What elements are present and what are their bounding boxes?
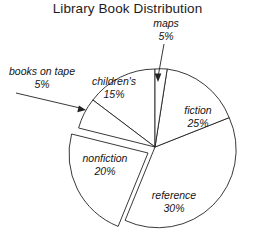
slice-label-childrens: children's (92, 75, 137, 87)
callout-label-maps: maps (153, 17, 179, 29)
pie-chart-canvas: children's 15% fiction 25% nonfiction 20… (0, 0, 255, 246)
callout-value-maps: 5% (158, 30, 173, 42)
callout-label-books-on-tape: books on tape (9, 65, 75, 77)
callout-value-books-on-tape: 5% (34, 78, 49, 90)
slice-label-nonfiction: nonfiction (83, 152, 128, 164)
callout-arrow-books-on-tape (16, 93, 86, 112)
slice-value-fiction: 25% (186, 117, 208, 129)
slice-value-nonfiction: 20% (93, 165, 115, 177)
slice-value-reference: 30% (163, 202, 184, 214)
pie-chart-figure: Library Book Distribution children's 15%… (0, 0, 255, 246)
slice-value-childrens: 15% (103, 88, 124, 100)
slice-label-fiction: fiction (184, 104, 212, 116)
slice-label-reference: reference (152, 189, 197, 201)
